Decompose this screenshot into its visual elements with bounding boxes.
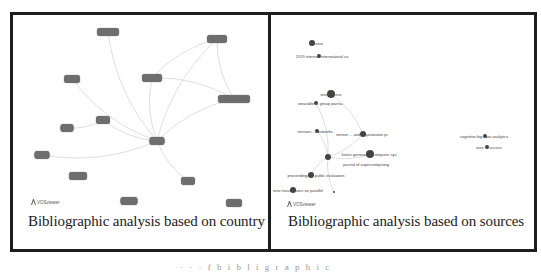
country-node (64, 75, 80, 83)
country-node (97, 28, 119, 36)
country-node (121, 197, 138, 205)
source-node-label: future generation computer sys (341, 152, 396, 157)
vosviewer-watermark-left: VOSviewer (31, 199, 60, 205)
source-node-label: cognitive big data analytics (460, 134, 508, 139)
source-node-label: ieee ... access (476, 145, 502, 150)
source-node-label: 2019 internati international co (296, 54, 348, 59)
source-node-label: sensor ... and organization pr (336, 132, 388, 137)
source-node-dot (325, 154, 331, 160)
country-node (69, 172, 87, 180)
panel-divider (268, 12, 271, 249)
caption-sources: Bibliographic analysis based on sources (288, 213, 524, 230)
source-node-label: sensors (309, 41, 323, 46)
country-node (181, 177, 195, 185)
source-node-label: ieee access (320, 92, 341, 97)
country-node (61, 124, 74, 132)
source-node-label: wearable ... group journa (298, 101, 342, 106)
watermark-text: VOSviewer (37, 200, 60, 205)
vosviewer-watermark-right: VOSviewer (287, 201, 316, 207)
watermark-text: VOSviewer (293, 202, 316, 207)
vosviewer-logo-icon (31, 199, 36, 205)
country-node (150, 137, 165, 145)
country-node (96, 116, 110, 124)
country-node (35, 151, 50, 159)
source-node-label: sensors ... networks (297, 129, 333, 134)
figure-caption-fragment: · · · f b i b l i g r a p h i c (180, 262, 331, 272)
country-node (142, 74, 162, 82)
source-node-label: ieee transactions on parallel (273, 188, 323, 193)
source-node-label: proceedings ... public evaluation (287, 173, 344, 178)
country-node (226, 199, 242, 207)
country-node (218, 95, 250, 103)
source-node-dot (333, 191, 335, 193)
country-node (207, 35, 227, 43)
caption-country: Bibliographic analysis based on country (28, 213, 265, 230)
vosviewer-logo-icon (287, 201, 292, 207)
source-node-label: journal of supercomputing (343, 162, 389, 167)
